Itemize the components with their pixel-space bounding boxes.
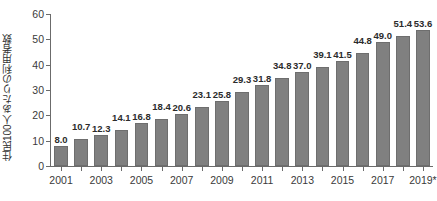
x-axis-tick-mark [202,167,203,171]
bar-group: 51.4 [393,14,413,166]
y-axis-tick-label: 60 [18,8,44,20]
bar-value-label: 44.8 [353,35,372,46]
bar [94,135,108,166]
bar-value-label: 16.8 [132,111,151,122]
bar-group: 18.4 [152,14,172,166]
x-axis-tick-mark [81,167,82,171]
x-axis-tick-mark [242,167,243,171]
bar [115,130,129,166]
x-axis-tick-mark [343,167,344,171]
y-axis-tick-mark [46,14,50,15]
x-axis-tick-mark [403,167,404,171]
bar-group: 39.1 [312,14,332,166]
x-axis-tick-mark [141,167,142,171]
y-axis-tick-label: 30 [18,84,44,96]
bar [74,139,88,166]
y-axis-labels: 0102030405060 [18,14,44,166]
x-axis-tick-label: 2003 [90,174,113,186]
bar [155,119,169,166]
y-axis-tick-mark [46,141,50,142]
bar-value-label: 14.1 [112,112,131,123]
bar [275,78,289,166]
x-axis-tick-mark [162,167,163,171]
bar-group: 29.3 [232,14,252,166]
bar [356,53,370,166]
x-axis-tick-mark [383,167,384,171]
x-axis-tick-mark [121,167,122,171]
y-axis-title: 住民100人あたりの利用者数 [0,18,16,178]
x-axis-tick-mark [61,167,62,171]
bar [396,36,410,166]
y-axis-tick-label: 0 [18,160,44,172]
x-axis-tick-label: 2015 [331,174,354,186]
bar-value-label: 37.0 [293,60,312,71]
x-axis-tick-label: 2009 [210,174,233,186]
x-axis-tick-label: 2019* [409,174,436,186]
bar [376,42,390,166]
bar-group: 14.1 [111,14,131,166]
bar-group: 31.8 [252,14,272,166]
bar [175,114,189,166]
y-axis-tick-mark [46,115,50,116]
bar-value-label: 18.4 [152,101,171,112]
plot-area: 8.010.712.314.116.818.420.623.125.829.33… [51,14,433,166]
bar [195,107,209,166]
bar-value-label: 20.6 [172,102,191,113]
x-axis-tick-label: 2011 [251,174,274,186]
bar [54,146,68,166]
bar-group: 41.5 [332,14,352,166]
x-axis-tick-mark [262,167,263,171]
bar [135,123,149,166]
x-axis-tick-mark [101,167,102,171]
bar [215,101,229,166]
x-axis-tick-mark [322,167,323,171]
bar-group: 44.8 [353,14,373,166]
x-axis-tick-label: 2013 [291,174,314,186]
x-axis-tick-mark [363,167,364,171]
x-axis-tick-mark [302,167,303,171]
x-axis-tick-label: 2017 [371,174,394,186]
bar-value-label: 51.4 [394,18,413,29]
bar-group: 20.6 [172,14,192,166]
y-axis-tick-mark [46,166,50,167]
y-axis-tick-mark [46,65,50,66]
x-axis-tick-label: 2001 [49,174,72,186]
bar-value-label: 49.0 [373,30,392,41]
bar-value-label: 29.3 [233,74,252,85]
x-axis-tick-label: 2007 [170,174,193,186]
bar [255,85,269,166]
bar [336,61,350,166]
bar-group: 16.8 [131,14,151,166]
x-axis-tick-mark [423,167,424,171]
x-axis-tick-label: 2005 [130,174,153,186]
y-axis-tick-label: 40 [18,59,44,71]
y-axis-tick-label: 50 [18,33,44,45]
bar-group: 25.8 [212,14,232,166]
x-axis-tick-mark [222,167,223,171]
bar-value-label: 25.8 [213,89,232,100]
bar-value-label: 39.1 [313,49,332,60]
bar-group: 23.1 [192,14,212,166]
x-axis-tick-mark [282,167,283,171]
bar-group: 53.6 [413,14,433,166]
bar-value-label: 23.1 [193,89,212,100]
bar [416,30,430,166]
bar-group: 34.8 [272,14,292,166]
bar-group: 12.3 [91,14,111,166]
bar [295,72,309,166]
bar-value-label: 34.8 [273,60,292,71]
y-axis-tick-label: 10 [18,135,44,147]
bar-group: 37.0 [292,14,312,166]
bar-value-label: 10.7 [72,121,91,132]
x-axis-tick-mark [182,167,183,171]
bar [235,92,249,166]
bar-group: 8.0 [51,14,71,166]
bar-value-label: 8.0 [54,134,67,145]
bar-value-label: 41.5 [333,49,352,60]
bar-value-label: 31.8 [253,73,272,84]
bar-value-label: 12.3 [92,123,111,134]
bar-group: 49.0 [373,14,393,166]
y-axis-tick-mark [46,90,50,91]
y-axis-tick-mark [46,39,50,40]
